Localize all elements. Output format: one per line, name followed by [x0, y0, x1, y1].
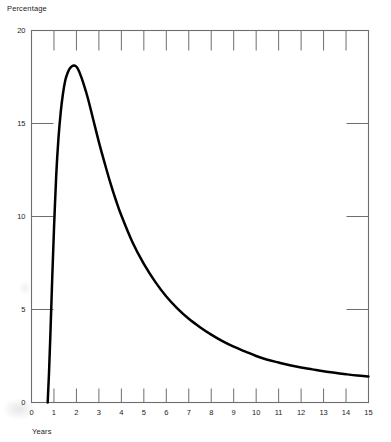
axis-ticks — [32, 31, 369, 403]
chart-figure: Percentage Years 05101520 01234567891011… — [0, 0, 391, 442]
plot-frame — [32, 31, 369, 403]
plot-area — [0, 0, 391, 442]
data-curve — [48, 65, 369, 402]
